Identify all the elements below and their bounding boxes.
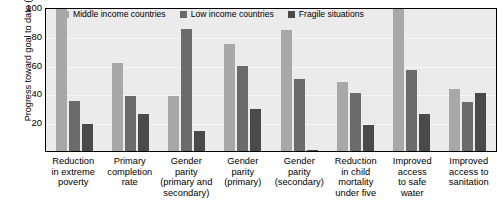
bar[interactable]: [307, 150, 318, 151]
bar-group: [440, 9, 496, 151]
bar[interactable]: [237, 66, 248, 151]
legend-swatch-icon: [180, 11, 187, 18]
x-axis-tick: Primary completion rate: [102, 156, 159, 218]
bar[interactable]: [337, 82, 348, 151]
bar[interactable]: [449, 89, 460, 151]
legend-swatch-icon: [62, 11, 69, 18]
bar[interactable]: [363, 125, 374, 151]
bar[interactable]: [69, 101, 80, 151]
legend-swatch-icon: [288, 11, 295, 18]
bar-group: [271, 9, 327, 151]
legend-label: Fragile situations: [299, 9, 364, 19]
legend-item[interactable]: Fragile situations: [288, 9, 364, 19]
bar-group: [215, 9, 271, 151]
x-axis-tick: Gender parity (primary and secondary): [158, 156, 215, 218]
bar-group: [159, 9, 215, 151]
bar[interactable]: [462, 102, 473, 151]
y-axis-tick-labels: 10080604020: [14, 0, 42, 160]
bars-layer: [46, 9, 496, 151]
bar-chart: Progress toward goal to date (%) 1008060…: [0, 0, 502, 219]
y-axis-tick: 60: [14, 61, 42, 71]
bar[interactable]: [125, 96, 136, 151]
bar[interactable]: [281, 30, 292, 151]
bar[interactable]: [224, 44, 235, 151]
legend-label: Middle income countries: [73, 9, 166, 19]
bar[interactable]: [294, 79, 305, 151]
y-axis-tick: 40: [14, 89, 42, 99]
bar-group: [384, 9, 440, 151]
x-axis-tick: Improved access to sanitation: [441, 156, 498, 218]
bar[interactable]: [181, 29, 192, 151]
x-axis-tick: Reduction in extreme poverty: [45, 156, 102, 218]
bar[interactable]: [82, 124, 93, 151]
bar[interactable]: [393, 8, 404, 151]
bar-group: [46, 9, 102, 151]
chart-legend: Middle income countriesLow income countr…: [62, 9, 364, 19]
y-axis-tick: 100: [14, 3, 42, 13]
bar[interactable]: [194, 131, 205, 151]
legend-item[interactable]: Low income countries: [180, 9, 274, 19]
bar[interactable]: [406, 70, 417, 151]
bar[interactable]: [250, 109, 261, 151]
x-axis-tick: Reduction in child mortality under five: [328, 156, 385, 218]
bar[interactable]: [475, 93, 486, 151]
y-axis-tick: 80: [14, 32, 42, 42]
bar-group: [327, 9, 383, 151]
bar[interactable]: [350, 93, 361, 151]
x-axis-tick: Gender parity (secondary): [271, 156, 328, 218]
bar-group: [102, 9, 158, 151]
x-axis-tick: Improved access to safe water: [384, 156, 441, 218]
plot-area: [45, 8, 497, 152]
y-axis-tick: 20: [14, 118, 42, 128]
bar[interactable]: [168, 96, 179, 151]
bar[interactable]: [112, 63, 123, 151]
legend-label: Low income countries: [191, 9, 274, 19]
bar[interactable]: [419, 114, 430, 151]
bar[interactable]: [138, 114, 149, 151]
bar[interactable]: [56, 8, 67, 151]
legend-item[interactable]: Middle income countries: [62, 9, 166, 19]
x-axis-tick: Gender parity (primary): [215, 156, 272, 218]
x-axis-tick-labels: Reduction in extreme povertyPrimary comp…: [45, 156, 497, 218]
